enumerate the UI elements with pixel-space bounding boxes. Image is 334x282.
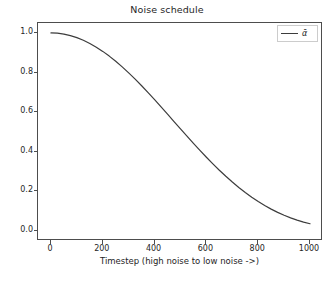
y-tick-mark [34,72,38,73]
y-tick-label: 0.2 [0,185,33,194]
legend-line-swatch [281,30,298,38]
chart-title: Noise schedule [0,4,334,15]
x-tick-mark [102,240,103,244]
x-tick-mark [205,240,206,244]
y-tick-label: 1.0 [0,27,33,36]
line-plot-svg [38,23,323,241]
legend-label-alpha-bar: ᾱ [302,30,307,38]
y-tick-mark [34,111,38,112]
figure-canvas: Noise schedule 0.00.20.40.60.81.0 020040… [0,0,334,282]
y-tick-mark [34,32,38,33]
y-tick-label: 0.4 [0,146,33,155]
y-tick-mark [34,190,38,191]
x-tick-mark [309,240,310,244]
x-axis-label: Timestep (high noise to low noise ->) [37,256,322,266]
x-tick-mark [154,240,155,244]
x-tick-label: 800 [237,244,277,253]
y-tick-label: 0.6 [0,106,33,115]
y-tick-label: 0.8 [0,67,33,76]
y-tick-mark [34,151,38,152]
x-tick-mark [50,240,51,244]
x-tick-label: 0 [30,244,70,253]
y-tick-label: 0.0 [0,225,33,234]
y-tick-mark [34,230,38,231]
x-tick-label: 400 [134,244,174,253]
legend-box[interactable]: ᾱ [277,25,318,42]
plot-axes-frame [37,22,322,240]
x-tick-label: 200 [82,244,122,253]
series-line-alpha-bar [51,33,310,224]
x-tick-label: 600 [185,244,225,253]
x-tick-label: 1000 [289,244,329,253]
x-tick-mark [257,240,258,244]
